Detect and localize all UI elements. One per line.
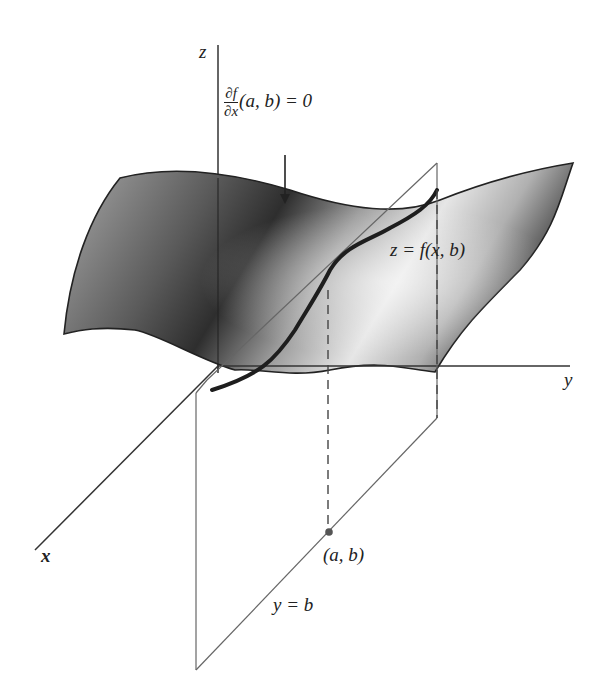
diagram-figure: z y x ∂f ∂x (a, b) = 0 z = f(x, b) (a, b… (0, 0, 606, 700)
partial-rest: (a, b) = 0 (239, 90, 312, 111)
partial-denominator: ∂x (224, 103, 238, 119)
x-axis (35, 366, 218, 550)
z-axis-label: z (199, 42, 206, 61)
partial-numerator: ∂f (224, 86, 238, 103)
partial-derivative-label: ∂f ∂x (a, b) = 0 (224, 86, 312, 119)
partial-fraction: ∂f ∂x (224, 86, 238, 119)
point-label: (a, b) (323, 545, 364, 564)
x-axis-label: x (41, 546, 51, 565)
point-a-b (325, 528, 333, 536)
y-axis-label: y (564, 370, 572, 389)
surface (60, 160, 580, 380)
plane-label: y = b (273, 595, 313, 614)
trace-curve-label: z = f(x, b) (390, 240, 465, 259)
